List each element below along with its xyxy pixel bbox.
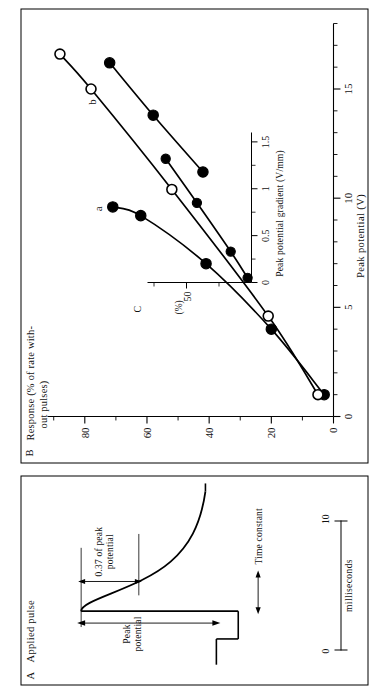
svg-text:0.5: 0.5 — [259, 229, 270, 242]
panel-c-curve: 00.511.550 — [133, 114, 283, 312]
panel-b-ylabel: Response (% of rate with- out pulses) — [23, 325, 49, 440]
panel-c-inset: C Peak potential gradient (V/mm) (%) 00.… — [133, 114, 283, 312]
panel-b-curve-label-a: a — [91, 206, 103, 211]
svg-text:20: 20 — [265, 426, 277, 437]
scalebar-line — [340, 520, 341, 650]
panel-b-xlabel: Peak potential (V) — [354, 9, 365, 462]
svg-text:1.5: 1.5 — [259, 135, 270, 148]
svg-text:15: 15 — [342, 82, 354, 93]
applied-pulse-waveform — [21, 476, 367, 684]
scalebar-start-label: 0 — [320, 648, 330, 653]
svg-text:0: 0 — [342, 413, 354, 419]
svg-text:60: 60 — [140, 426, 152, 437]
scalebar-end-label: 10 — [320, 514, 330, 524]
panel-a-applied-pulse: A Applied pulse — [20, 475, 368, 685]
svg-text:1: 1 — [259, 186, 270, 191]
svg-text:0: 0 — [259, 280, 270, 285]
svg-text:5: 5 — [342, 304, 354, 310]
panel-a-peak-potential-label: Peakpotential — [121, 616, 143, 651]
svg-text:40: 40 — [203, 426, 215, 437]
panel-a-037-peak-label: 0.37 of peakpotential — [93, 526, 115, 576]
panel-b-response-vs-peak-potential: B Response (% of rate with- out pulses) … — [20, 8, 368, 463]
panel-a-time-constant-label: Time constant — [253, 508, 264, 564]
svg-text:10: 10 — [342, 192, 354, 203]
panel-b-tag: B — [23, 449, 34, 456]
panel-a-milliseconds-scalebar: 0 10 milliseconds — [333, 520, 351, 650]
svg-text:50: 50 — [181, 291, 192, 301]
scalebar-units-label: milliseconds — [343, 520, 353, 650]
panel-b-curve-label-b: b — [85, 98, 97, 104]
svg-text:80: 80 — [78, 426, 90, 437]
figure-stage: A Applied pulse — [0, 0, 387, 691]
svg-text:0: 0 — [327, 426, 339, 432]
